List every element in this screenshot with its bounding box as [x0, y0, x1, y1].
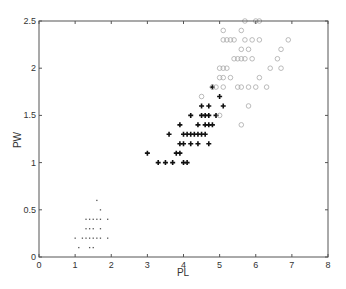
data-point	[85, 228, 86, 229]
y-tick-label: 0.5	[23, 205, 36, 215]
series-setosa	[75, 200, 109, 249]
x-tick-label: 3	[145, 260, 150, 270]
series-virginica	[199, 19, 290, 127]
data-point	[89, 238, 90, 239]
data-point	[181, 141, 186, 146]
data-point	[210, 122, 215, 127]
data-point	[246, 85, 251, 90]
y-axis-label: PW	[12, 131, 23, 148]
data-point	[264, 85, 269, 90]
data-point	[239, 47, 244, 52]
data-point	[221, 85, 226, 90]
data-point	[177, 122, 182, 127]
data-point	[156, 160, 161, 165]
data-point	[107, 238, 108, 239]
data-point	[195, 122, 200, 127]
data-point	[206, 141, 211, 146]
data-point	[145, 151, 150, 156]
data-point	[75, 238, 76, 239]
x-tick-label: 1	[73, 260, 78, 270]
data-point	[268, 66, 273, 71]
data-point	[239, 123, 244, 128]
data-point	[93, 219, 94, 220]
data-point	[286, 38, 291, 43]
data-point	[253, 85, 258, 90]
data-point	[96, 200, 97, 201]
data-point	[221, 103, 226, 108]
x-tick-label: 7	[289, 260, 294, 270]
data-point	[96, 219, 97, 220]
plot-frame	[39, 21, 328, 257]
data-point	[163, 160, 168, 165]
data-point	[93, 228, 94, 229]
data-point	[250, 56, 255, 61]
data-point	[195, 141, 200, 146]
y-tick-label: 2.5	[23, 16, 36, 26]
data-point	[93, 247, 94, 248]
data-point	[257, 75, 262, 80]
x-axis-label: PL	[177, 267, 190, 278]
data-point	[85, 219, 86, 220]
data-point	[203, 132, 208, 137]
x-tick-label: 6	[253, 260, 258, 270]
data-point	[199, 94, 204, 99]
data-point	[250, 38, 255, 43]
data-point	[206, 113, 211, 118]
data-point	[177, 151, 182, 156]
data-point	[188, 141, 193, 146]
data-point	[107, 219, 108, 220]
data-point	[82, 238, 83, 239]
data-point	[100, 219, 101, 220]
y-tick-label: 1.5	[23, 110, 36, 120]
data-point	[89, 228, 90, 229]
y-tick-label: 1	[31, 158, 36, 168]
data-point	[257, 38, 262, 43]
data-point	[246, 47, 251, 52]
data-point	[170, 160, 175, 165]
data-point	[221, 28, 226, 33]
data-point	[275, 56, 280, 61]
data-point	[96, 238, 97, 239]
data-point	[167, 132, 172, 137]
data-point	[89, 219, 90, 220]
axes: 01234567800.511.522.5	[23, 16, 330, 270]
scatter-chart: 01234567800.511.522.5 PL PW	[0, 0, 346, 289]
plot-area	[75, 19, 291, 249]
data-point	[78, 247, 79, 248]
x-tick-label: 8	[325, 260, 330, 270]
x-tick-label: 5	[217, 260, 222, 270]
x-tick-label: 2	[109, 260, 114, 270]
data-point	[100, 228, 101, 229]
data-point	[188, 113, 193, 118]
data-point	[228, 75, 233, 80]
data-point	[217, 94, 222, 99]
x-tick-label: 0	[36, 260, 41, 270]
data-point	[93, 238, 94, 239]
data-point	[279, 47, 284, 52]
data-point	[100, 238, 101, 239]
data-point	[185, 160, 190, 165]
data-point	[279, 66, 284, 71]
series-versicolor	[145, 85, 226, 166]
data-point	[206, 103, 211, 108]
y-tick-label: 0	[31, 252, 36, 262]
data-point	[85, 238, 86, 239]
data-point	[89, 247, 90, 248]
data-point	[199, 103, 204, 108]
data-point	[246, 104, 251, 109]
y-tick-label: 2	[31, 63, 36, 73]
data-point	[100, 209, 101, 210]
data-point	[243, 38, 248, 43]
data-point	[239, 28, 244, 33]
